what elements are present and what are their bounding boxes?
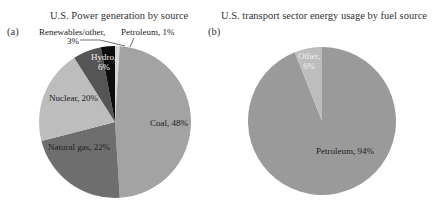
label-petroleum: Petroleum, 1% xyxy=(121,27,175,37)
label-nuclear: Nuclear, 20% xyxy=(49,93,99,103)
label-coal: Coal, 48% xyxy=(150,118,188,128)
label-hydro-pct: 6% xyxy=(98,62,111,72)
label-petroleum-94: Petroleum, 94% xyxy=(316,146,374,156)
label-natural-gas: Natural gas, 22% xyxy=(48,142,111,152)
leader-line-renewables xyxy=(80,40,125,46)
label-hydro: Hydro, xyxy=(91,52,116,62)
label-other: Other, xyxy=(298,51,320,61)
leader-line-petroleum xyxy=(130,38,134,47)
pie-charts: Coal, 48% Natural gas, 22% Nuclear, 20% … xyxy=(0,0,432,213)
label-other-pct: 6% xyxy=(303,61,316,71)
label-renewables-pct: 3% xyxy=(67,36,80,46)
pie-chart-b xyxy=(248,47,396,195)
